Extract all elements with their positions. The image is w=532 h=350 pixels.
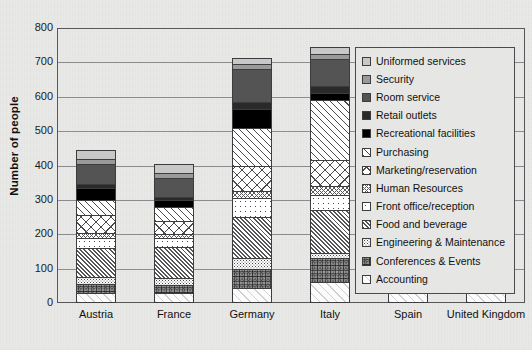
y-tick-label: 100: [1, 263, 53, 274]
legend-label: Food and beverage: [376, 219, 467, 230]
bar-segment[interactable]: [310, 195, 350, 210]
bar-segment[interactable]: [76, 248, 116, 277]
bar-segment[interactable]: [310, 47, 350, 54]
legend-item[interactable]: Retail outlets: [362, 107, 509, 125]
bar-segment[interactable]: [76, 159, 116, 164]
bar-segment[interactable]: [154, 207, 194, 221]
bar-segment[interactable]: [154, 221, 194, 235]
bar-segment[interactable]: [232, 64, 272, 69]
bar-segment[interactable]: [76, 293, 116, 303]
bar-segment[interactable]: [310, 160, 350, 186]
bar-france[interactable]: [154, 28, 194, 303]
bar-segment[interactable]: [310, 258, 350, 282]
y-tick: 800: [0, 22, 53, 33]
bar-segment[interactable]: [154, 197, 194, 200]
bar-segment[interactable]: [232, 102, 272, 109]
y-tick-label: 200: [1, 228, 53, 239]
bar-segment[interactable]: [232, 166, 272, 192]
legend-label: Conferences & Events: [376, 256, 480, 267]
bar-segment[interactable]: [76, 233, 116, 238]
legend-item[interactable]: Uniformed services: [362, 52, 509, 70]
legend-label: Room service: [376, 92, 440, 103]
legend-label: Uniformed services: [376, 56, 466, 67]
bar-segment[interactable]: [232, 288, 272, 303]
bar-austria[interactable]: [76, 28, 116, 303]
legend-item[interactable]: Accounting: [362, 270, 509, 288]
bar-segment[interactable]: [310, 93, 350, 100]
legend-swatch-icon: [362, 148, 371, 157]
legend-label: Human Resources: [376, 183, 463, 194]
legend-item[interactable]: Recreational facilities: [362, 125, 509, 143]
bar-segment[interactable]: [310, 186, 350, 195]
legend-swatch-icon: [362, 184, 371, 193]
legend-item[interactable]: Human Resources: [362, 179, 509, 197]
bar-segment[interactable]: [232, 198, 272, 217]
bar-segment[interactable]: [310, 282, 350, 303]
bar-segment[interactable]: [154, 247, 194, 278]
y-tick-label: 700: [1, 56, 53, 67]
legend-item[interactable]: Front office/reception: [362, 198, 509, 216]
bar-segment[interactable]: [232, 258, 272, 268]
y-tick: 200: [0, 228, 53, 239]
bar-segment[interactable]: [310, 100, 350, 160]
x-tick-label: Germany: [207, 308, 297, 321]
legend-swatch-icon: [362, 166, 371, 175]
bar-segment[interactable]: [154, 200, 194, 207]
bar-segment[interactable]: [310, 253, 350, 258]
bar-segment[interactable]: [154, 278, 194, 285]
y-tick-label: 800: [1, 22, 53, 33]
bar-germany[interactable]: [232, 28, 272, 303]
legend-item[interactable]: Conferences & Events: [362, 252, 509, 270]
chart-legend: Uniformed servicesSecurityRoom serviceRe…: [355, 47, 515, 294]
bar-segment[interactable]: [310, 86, 350, 93]
legend-label: Front office/reception: [376, 201, 474, 212]
y-tick-label: 300: [1, 194, 53, 205]
bar-segment[interactable]: [154, 238, 194, 247]
legend-item[interactable]: Security: [362, 70, 509, 88]
bar-segment[interactable]: [232, 69, 272, 102]
legend-swatch-icon: [362, 93, 371, 102]
bar-segment[interactable]: [154, 173, 194, 178]
y-tick: 0: [0, 297, 53, 308]
legend-swatch-icon: [362, 111, 371, 120]
bar-segment[interactable]: [310, 210, 350, 253]
x-tick-label: United Kingdom: [441, 308, 531, 321]
legend-label: Retail outlets: [376, 110, 437, 121]
legend-item[interactable]: Purchasing: [362, 143, 509, 161]
bar-segment[interactable]: [154, 164, 194, 173]
x-tick-label: Italy: [285, 308, 375, 321]
y-tick: 400: [0, 160, 53, 171]
legend-item[interactable]: Food and beverage: [362, 216, 509, 234]
bar-segment[interactable]: [76, 215, 116, 232]
bar-segment[interactable]: [466, 293, 506, 303]
bar-segment[interactable]: [232, 269, 272, 288]
legend-swatch-icon: [362, 75, 371, 84]
bar-segment[interactable]: [76, 150, 116, 159]
legend-swatch-icon: [362, 275, 371, 284]
legend-label: Security: [376, 74, 414, 85]
bar-segment[interactable]: [154, 178, 194, 197]
bar-segment[interactable]: [76, 200, 116, 215]
legend-label: Purchasing: [376, 147, 429, 158]
bar-segment[interactable]: [310, 59, 350, 87]
bar-segment[interactable]: [232, 58, 272, 64]
bar-segment[interactable]: [232, 128, 272, 166]
bar-italy[interactable]: [310, 28, 350, 303]
bar-segment[interactable]: [310, 54, 350, 59]
bar-segment[interactable]: [154, 234, 194, 238]
bar-segment[interactable]: [232, 191, 272, 198]
legend-item[interactable]: Marketing/reservation: [362, 161, 509, 179]
y-tick: 300: [0, 194, 53, 205]
legend-item[interactable]: Room service: [362, 88, 509, 106]
bar-segment[interactable]: [232, 109, 272, 128]
legend-item[interactable]: Engineering & Maintenance: [362, 234, 509, 252]
bar-segment[interactable]: [76, 238, 116, 248]
bar-segment[interactable]: [76, 277, 116, 284]
bar-segment[interactable]: [154, 285, 194, 294]
bar-segment[interactable]: [154, 293, 194, 303]
bar-segment[interactable]: [76, 188, 116, 200]
bar-segment[interactable]: [76, 164, 116, 185]
bar-segment[interactable]: [232, 217, 272, 258]
bar-segment[interactable]: [76, 284, 116, 293]
bar-segment[interactable]: [76, 184, 116, 187]
